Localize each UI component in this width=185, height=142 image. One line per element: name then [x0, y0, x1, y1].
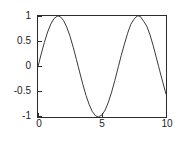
- chart-screenshot: 1 0.5 0 -0.5 -1 0 5 10: [0, 0, 185, 142]
- sine-curve: [38, 16, 166, 117]
- y-tick-label-0: 0: [25, 61, 31, 71]
- x-tick-label-10: 10: [161, 119, 172, 129]
- x-tick-label-5: 5: [99, 119, 105, 129]
- y-tick-label-1: 1: [25, 11, 31, 21]
- plot-area: [37, 15, 167, 118]
- y-tick-label--0.5: -0.5: [14, 86, 31, 96]
- x-axis-tick-labels: 0 5 10: [0, 119, 185, 139]
- y-tick-label-0.5: 0.5: [17, 36, 31, 46]
- series-line-sin: [38, 16, 166, 117]
- x-tick-mark-10: [166, 113, 167, 117]
- x-tick-label-0: 0: [36, 119, 42, 129]
